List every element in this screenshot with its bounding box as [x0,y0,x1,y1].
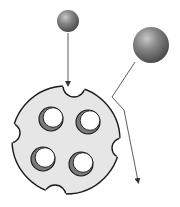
notch-bottom [44,185,66,207]
hole-bottom-left [31,147,55,171]
hole-bottom-right [69,152,93,176]
hole-top-left [39,107,63,131]
notch-left [0,123,20,143]
perforated-disk [0,75,132,207]
disk-body [12,86,120,194]
diagram-canvas [0,0,180,207]
notch-right [112,138,132,158]
small-sphere [57,10,79,32]
hole-top-right [76,110,100,134]
large-sphere [133,27,169,63]
